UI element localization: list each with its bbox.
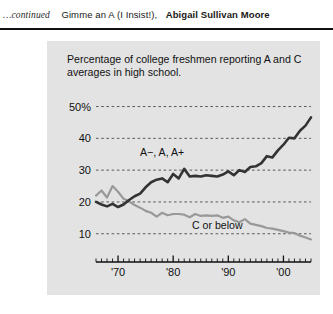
series-line [96,117,311,207]
y-axis-tick-label: 40 [79,132,91,144]
x-axis-tick-label: '90 [221,266,235,278]
series-annotation-label: A−, A, A+ [140,146,184,158]
y-axis-tick-label: 20 [79,196,91,208]
continued-marker: …continued [3,10,50,20]
line-chart-svg: 50%40302010'70'80'90'00A−, A, A+C or bel… [47,41,320,295]
article-author: Abigail Sullivan Moore [166,9,270,20]
x-axis-tick-label: '80 [166,266,180,278]
y-axis-tick-label: 50% [69,101,91,113]
series-line [96,186,311,239]
x-axis-tick-label: '00 [276,266,290,278]
article-header: …continued Gimme an A (I Insist!), Abiga… [0,0,333,30]
header-citation: …continued Gimme an A (I Insist!), Abiga… [3,9,270,20]
chart-plot-area: 50%40302010'70'80'90'00A−, A, A+C or bel… [47,41,320,295]
y-axis-tick-label: 10 [79,228,91,240]
article-title: Gimme an A (I Insist!), [61,9,157,20]
header-divider [0,28,333,30]
y-axis-tick-label: 30 [79,164,91,176]
series-annotation-label: C or below [192,219,243,231]
x-axis-tick-label: '70 [111,266,125,278]
